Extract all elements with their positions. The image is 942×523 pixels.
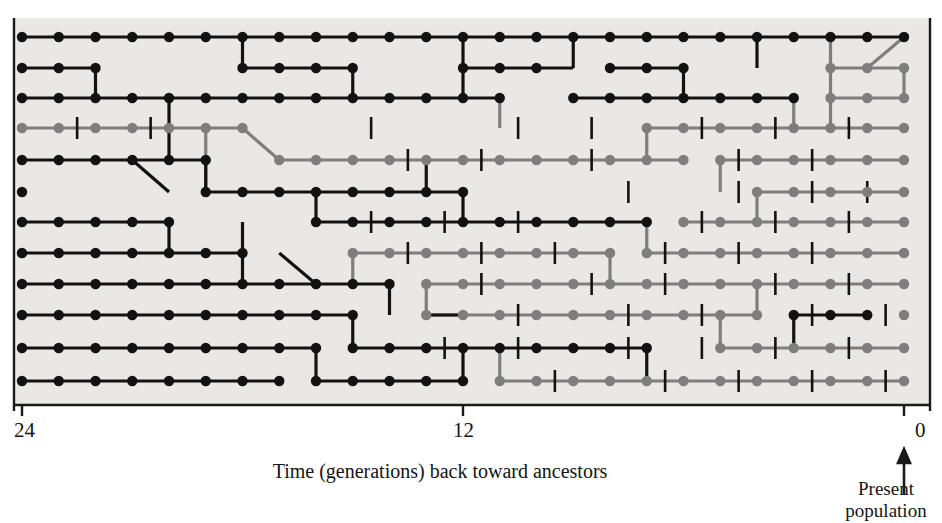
- generation-node: [899, 155, 909, 165]
- generation-node: [531, 279, 541, 289]
- generation-node: [568, 93, 578, 103]
- generation-node: [495, 217, 505, 227]
- generation-node: [458, 155, 468, 165]
- generation-node: [862, 155, 872, 165]
- axis-tick-label-24: 24: [14, 420, 35, 441]
- generation-node: [862, 310, 872, 320]
- generation-node: [421, 376, 431, 386]
- generation-node: [127, 376, 137, 386]
- generation-node: [201, 187, 211, 197]
- generation-node: [54, 32, 64, 42]
- generation-node: [678, 32, 688, 42]
- generation-node: [752, 248, 762, 258]
- present-population-line2: population: [845, 500, 926, 521]
- generation-node: [17, 248, 27, 258]
- generation-node: [17, 376, 27, 386]
- generation-node: [899, 248, 909, 258]
- generation-node: [789, 187, 799, 197]
- generation-node: [348, 279, 358, 289]
- generation-node: [642, 123, 652, 133]
- generation-node: [164, 155, 174, 165]
- generation-node: [201, 93, 211, 103]
- generation-node: [421, 155, 431, 165]
- generation-node: [715, 343, 725, 353]
- generation-node: [54, 93, 64, 103]
- generation-node: [605, 376, 615, 386]
- generation-node: [127, 217, 137, 227]
- generation-node: [642, 32, 652, 42]
- generation-node: [348, 376, 358, 386]
- generation-node: [17, 32, 27, 42]
- generation-node: [311, 93, 321, 103]
- generation-node: [127, 123, 137, 133]
- generation-node: [825, 155, 835, 165]
- generation-node: [458, 248, 468, 258]
- generation-node: [54, 310, 64, 320]
- generation-node: [752, 155, 762, 165]
- generation-node: [164, 217, 174, 227]
- generation-node: [825, 217, 835, 227]
- generation-node: [348, 187, 358, 197]
- generation-node: [17, 123, 27, 133]
- generation-node: [715, 279, 725, 289]
- generation-node: [237, 32, 247, 42]
- generation-node: [274, 343, 284, 353]
- generation-node: [384, 217, 394, 227]
- generation-node: [531, 310, 541, 320]
- generation-node: [642, 63, 652, 73]
- generation-node: [421, 32, 431, 42]
- generation-node: [384, 279, 394, 289]
- generation-node: [862, 187, 872, 197]
- generation-node: [348, 248, 358, 258]
- generation-node: [90, 310, 100, 320]
- generation-node: [899, 217, 909, 227]
- generation-node: [531, 155, 541, 165]
- generation-node: [678, 217, 688, 227]
- generation-node: [642, 155, 652, 165]
- generation-node: [274, 376, 284, 386]
- generation-node: [384, 187, 394, 197]
- generation-node: [899, 343, 909, 353]
- generation-node: [458, 279, 468, 289]
- generation-node: [127, 279, 137, 289]
- generation-node: [715, 310, 725, 320]
- generation-node: [164, 93, 174, 103]
- generation-node: [678, 123, 688, 133]
- generation-node: [678, 279, 688, 289]
- generation-node: [17, 155, 27, 165]
- generation-node: [495, 376, 505, 386]
- generation-node: [642, 310, 652, 320]
- generation-node: [825, 63, 835, 73]
- generation-node: [274, 32, 284, 42]
- generation-node: [752, 279, 762, 289]
- generation-node: [789, 123, 799, 133]
- generation-node: [531, 248, 541, 258]
- generation-node: [789, 93, 799, 103]
- generation-node: [201, 279, 211, 289]
- generation-node: [348, 310, 358, 320]
- generation-node: [678, 155, 688, 165]
- generation-node: [164, 310, 174, 320]
- generation-node: [568, 343, 578, 353]
- generation-node: [862, 93, 872, 103]
- generation-node: [495, 310, 505, 320]
- generation-node: [458, 217, 468, 227]
- generation-node: [752, 343, 762, 353]
- generation-node: [311, 343, 321, 353]
- generation-node: [311, 187, 321, 197]
- generation-node: [531, 217, 541, 227]
- generation-node: [752, 187, 762, 197]
- generation-node: [605, 248, 615, 258]
- generation-node: [90, 217, 100, 227]
- generation-node: [605, 32, 615, 42]
- generation-node: [90, 63, 100, 73]
- generation-node: [201, 248, 211, 258]
- generation-node: [274, 63, 284, 73]
- generation-node: [17, 93, 27, 103]
- generation-node: [127, 93, 137, 103]
- generation-node: [531, 32, 541, 42]
- generation-node: [311, 376, 321, 386]
- generation-node: [274, 155, 284, 165]
- generation-node: [164, 248, 174, 258]
- generation-node: [54, 279, 64, 289]
